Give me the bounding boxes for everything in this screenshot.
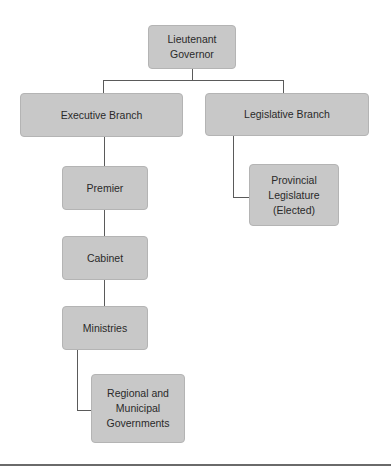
node-provincial-legislature: Provincial Legislature (Elected) (249, 164, 339, 226)
node-lieutenant-governor: Lieutenant Governor (148, 25, 236, 69)
connector-legislative-down (233, 136, 234, 198)
connector-to-regional (77, 410, 92, 411)
connector-executive-to-premier (104, 137, 105, 166)
node-executive-branch: Executive Branch (20, 93, 183, 137)
node-cabinet: Cabinet (62, 236, 148, 280)
node-label: Ministries (83, 321, 127, 336)
connector-branches-horizontal (103, 80, 284, 81)
node-label: Lieutenant Governor (167, 32, 216, 62)
node-label: Executive Branch (61, 108, 143, 123)
node-label: Provincial Legislature (Elected) (268, 173, 319, 218)
node-legislative-branch: Legislative Branch (205, 93, 369, 136)
node-premier: Premier (62, 166, 148, 210)
connector-to-provincial (233, 197, 250, 198)
connector-lg-down (192, 69, 193, 80)
connector-to-executive (103, 80, 104, 93)
connector-premier-to-cabinet (104, 210, 105, 236)
node-regional-municipal-governments: Regional and Municipal Governments (91, 374, 185, 443)
connector-ministries-down (77, 350, 78, 411)
connector-cabinet-to-ministries (104, 280, 105, 306)
node-label: Premier (87, 181, 124, 196)
node-label: Cabinet (87, 251, 123, 266)
node-label: Legislative Branch (244, 107, 330, 122)
node-label: Regional and Municipal Governments (106, 386, 169, 431)
connector-to-legislative (283, 80, 284, 93)
node-ministries: Ministries (62, 306, 148, 350)
bottom-divider (0, 464, 391, 466)
org-chart: Lieutenant Governor Executive Branch Leg… (0, 0, 391, 472)
